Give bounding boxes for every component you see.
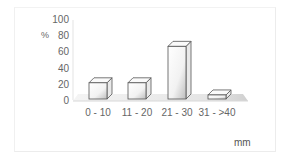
x-tick-label: 21 - 30 [161, 107, 192, 118]
bar-2 [168, 41, 191, 99]
bar-3 [208, 90, 231, 99]
bar-0 [89, 78, 112, 99]
plot-area [0, 0, 291, 160]
bar-1 [128, 78, 151, 99]
x-tick-label: 31 - >40 [199, 107, 236, 118]
x-tick-label: 0 - 10 [85, 107, 111, 118]
x-axis-label: mm [234, 137, 251, 148]
x-tick-label: 11 - 20 [122, 107, 152, 118]
